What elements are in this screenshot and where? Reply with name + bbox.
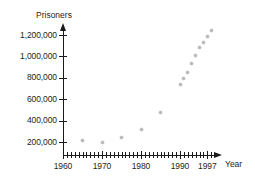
x-tick-1970 [102,151,103,159]
x-tick-label-1980: 1980 [126,161,156,171]
prisoners-vs-year-scatter-chart: Prisoners Year 1,200,000 1,000,000 800,0… [0,0,255,180]
y-tick-600000 [59,99,67,100]
data-point [159,111,162,114]
x-axis-arrowhead-icon [214,152,222,158]
y-tick-800000 [59,78,67,79]
x-tick-1989 [176,152,177,158]
data-point [182,77,185,80]
y-axis-title: Prisoners [36,10,72,20]
y-axis-arrowhead-icon [60,23,66,31]
x-tick-1973 [114,152,115,158]
data-point [194,54,197,57]
x-tick-1990 [180,151,181,159]
x-tick-1960 [63,151,64,159]
x-tick-1974 [118,152,119,158]
x-tick-1975 [122,152,123,158]
x-tick-1991 [184,152,185,158]
x-tick-1971 [106,152,107,158]
x-tick-1962 [71,152,72,158]
x-axis-title: Year [225,159,242,169]
x-tick-1963 [75,152,76,158]
x-tick-1961 [67,152,68,158]
x-tick-1994 [196,152,197,158]
x-tick-1978 [133,152,134,158]
x-tick-1987 [168,152,169,158]
plot-area: Prisoners Year 1,200,000 1,000,000 800,0… [0,0,255,180]
x-tick-1968 [94,152,95,158]
data-point [198,46,201,49]
data-point [202,41,205,44]
y-tick-label-1200000: 1,200,000 [5,31,57,40]
y-axis-line [63,30,64,155]
y-tick-200000 [59,142,67,143]
data-point [101,141,104,144]
y-tick-400000 [59,121,67,122]
x-tick-1996 [203,152,204,158]
y-tick-label-200000: 200,000 [5,138,57,147]
x-tick-1985 [161,152,162,158]
x-tick-1964 [79,152,80,158]
data-point [206,35,209,38]
x-tick-label-1970: 1970 [87,161,117,171]
x-tick-1983 [153,152,154,158]
data-point [120,136,123,139]
x-tick-1980 [141,151,142,159]
y-tick-label-600000: 600,000 [5,95,57,104]
x-tick-1967 [90,152,91,158]
x-tick-1986 [164,152,165,158]
data-point [81,139,84,142]
data-point [186,71,189,74]
x-tick-1982 [149,152,150,158]
x-tick-1984 [157,152,158,158]
y-tick-1000000 [59,56,67,57]
x-tick-1988 [172,152,173,158]
data-point [140,128,143,131]
x-tick-1969 [98,152,99,158]
x-tick-1981 [145,152,146,158]
x-tick-label-1960: 1960 [48,161,78,171]
y-tick-label-400000: 400,000 [5,116,57,125]
x-tick-1965 [83,152,84,158]
x-tick-1976 [125,152,126,158]
x-tick-1977 [129,152,130,158]
x-tick-1972 [110,152,111,158]
x-tick-1995 [200,152,201,158]
x-tick-1979 [137,152,138,158]
x-tick-1993 [192,152,193,158]
data-point [210,29,213,32]
x-tick-1992 [188,152,189,158]
x-tick-1997 [207,151,208,159]
data-point [179,83,182,86]
x-tick-1998 [211,152,212,158]
y-tick-1200000 [59,35,67,36]
y-tick-label-800000: 800,000 [5,73,57,82]
y-tick-label-1000000: 1,000,000 [5,52,57,61]
x-tick-label-1997: 1997 [192,161,222,171]
x-tick-1966 [86,152,87,158]
data-point [190,62,193,65]
x-tick-label-1990: 1990 [165,161,195,171]
